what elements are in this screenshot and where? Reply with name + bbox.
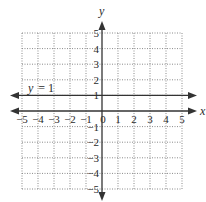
- y-tick-label: −1: [87, 121, 99, 133]
- arrow-up-icon: [99, 21, 106, 30]
- arrow-left-icon: [10, 92, 19, 99]
- arrow-down-icon: [99, 192, 106, 201]
- y-tick-label: −3: [87, 152, 99, 164]
- x-tick-label: −2: [64, 113, 76, 125]
- y-tick-label: 2: [94, 74, 100, 86]
- y-axis-label: y: [98, 4, 105, 18]
- x-tick-label: −4: [32, 113, 44, 125]
- x-axis-label: x: [199, 104, 206, 118]
- line-label: y = 1: [27, 81, 54, 95]
- y-tick-label: −2: [87, 136, 99, 148]
- y-tick-label: 3: [94, 58, 100, 70]
- x-tick-label: −5: [16, 113, 28, 125]
- y-tick-label: −5: [87, 183, 99, 195]
- arrow-right-icon: [188, 92, 197, 99]
- y-tick-label: −4: [87, 167, 99, 179]
- x-tick-label: 5: [179, 113, 185, 125]
- x-tick-label: −3: [48, 113, 60, 125]
- x-tick-label: 2: [131, 113, 137, 125]
- line-label-eq: = 1: [38, 81, 54, 95]
- x-tick-label: 3: [147, 113, 153, 125]
- line-label-var: y: [27, 81, 34, 95]
- y-tick-label: 1: [94, 89, 100, 101]
- x-tick-label: 4: [163, 113, 169, 125]
- x-tick-label: 1: [115, 113, 121, 125]
- y-tick-label: 4: [94, 43, 100, 55]
- y-tick-label: 5: [94, 27, 100, 39]
- x-tick-label: 0: [100, 113, 106, 125]
- coordinate-plane: −5−4−3−2−101234554321−1−2−3−4−5 x y y = …: [0, 0, 206, 202]
- arrow-right-icon: [188, 108, 197, 115]
